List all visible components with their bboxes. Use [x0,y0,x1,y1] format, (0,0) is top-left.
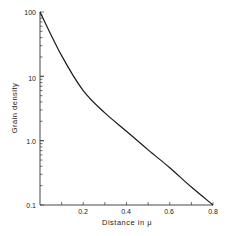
y-tick-0-1: 0.1 [26,202,36,209]
y-tick-labels: 100 10 1.0 0.1 [24,9,36,209]
x-tick-0-6: 0.6 [164,208,174,215]
y-tick-100: 100 [24,9,36,16]
y-axis-title: Grain density [10,83,19,134]
grain-density-curve [40,12,213,205]
plot-area [40,12,213,205]
x-axis-title: Distance in μ [102,218,152,227]
y-minor-ticks [40,12,44,205]
x-tick-0-8: 0.8 [208,208,218,215]
y-tick-10: 10 [28,75,36,82]
grain-density-chart: 100 10 1.0 0.1 0.2 0.4 0.6 0.8 Distance … [0,0,228,236]
x-tick-0-2: 0.2 [78,208,88,215]
x-tick-labels: 0.2 0.4 0.6 0.8 [78,208,218,215]
x-tick-0-4: 0.4 [121,208,131,215]
y-tick-1: 1.0 [26,138,36,145]
